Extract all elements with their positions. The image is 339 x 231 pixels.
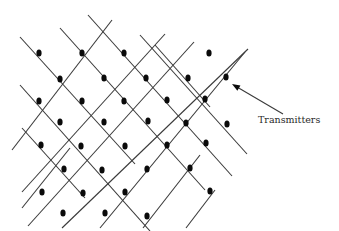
- transmitter-dot: [61, 165, 66, 172]
- transmitter-dot: [143, 74, 148, 81]
- transmitter-dot: [102, 209, 107, 216]
- transmitter-dot: [203, 139, 208, 146]
- transmitter-dot: [185, 74, 190, 81]
- transmitter-dot: [38, 141, 43, 148]
- transmitter-dot: [187, 164, 192, 171]
- transmitter-dot: [164, 141, 169, 148]
- transmitter-dot: [224, 120, 229, 127]
- transmitter-dot: [144, 165, 149, 172]
- transmitter-dot: [60, 209, 65, 216]
- lattice-line: [100, 52, 245, 228]
- lattice-line: [28, 42, 194, 226]
- transmitter-dot: [144, 212, 149, 219]
- transmitter-dot: [99, 166, 104, 173]
- transmitter-dot: [164, 96, 169, 103]
- transmitter-dot: [39, 188, 44, 195]
- transmitter-dot: [57, 118, 62, 125]
- transmitter-dot: [202, 95, 207, 102]
- transmitter-dot: [101, 74, 106, 81]
- lattice-line: [22, 148, 70, 208]
- transmitter-dot: [223, 73, 228, 80]
- transmitter-dot: [121, 49, 126, 56]
- transmitter-dot: [183, 119, 188, 126]
- lattice-line: [140, 35, 247, 154]
- transmitter-dot: [36, 49, 41, 56]
- lattice-line: [62, 49, 248, 228]
- transmitter-dot: [57, 75, 62, 82]
- transmitter-dot: [122, 188, 127, 195]
- lattice-line: [22, 128, 85, 198]
- transmitter-dot: [78, 142, 83, 149]
- transmitter-dot: [36, 97, 41, 104]
- lattice-line: [12, 20, 112, 150]
- pointer-arrow: [232, 84, 283, 114]
- transmitter-dot: [206, 49, 211, 56]
- transmitter-dot: [79, 97, 84, 104]
- lattice-lines-descending: [20, 15, 247, 231]
- transmitter-dots: [36, 49, 229, 219]
- transmitter-dot: [122, 142, 127, 149]
- transmitters-label: Transmitters: [258, 114, 320, 125]
- transmitter-dot: [121, 97, 126, 104]
- lattice-line: [186, 190, 215, 228]
- lattice-lines-ascending: [12, 20, 248, 228]
- transmitter-dot: [101, 118, 106, 125]
- transmitter-dot: [145, 117, 150, 124]
- transmitter-dot: [207, 187, 212, 194]
- transmitter-dot: [80, 189, 85, 196]
- arrowhead-icon: [232, 84, 240, 91]
- transmitter-dot: [79, 49, 84, 56]
- arrow-shaft: [237, 87, 283, 114]
